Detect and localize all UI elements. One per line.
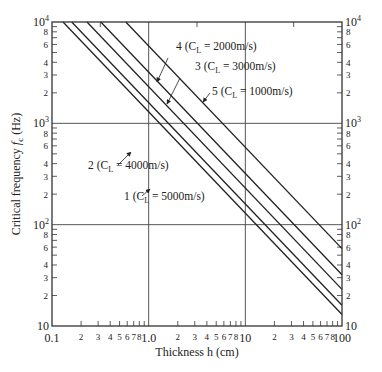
y-minor-tick-label-right: 6 [346,141,351,151]
series-label-2: 2 (CL = 4000m/s) [88,159,169,174]
y-minor-tick-label-right: 2 [346,190,351,200]
x-major-tick-label: 1.0 [141,331,156,345]
x-minor-tick-label: 3 [193,332,198,342]
y-minor-tick-label-right: 2 [346,88,351,98]
y-minor-tick-label-left: 4 [44,260,49,270]
y-major-tick-label-right: 104 [345,14,361,29]
x-major-tick-label: 10 [239,331,251,345]
x-major-tick-label: 0.1 [45,331,60,345]
y-minor-tick-label-left: 2 [44,190,49,200]
x-minor-tick-label: 8 [234,332,239,342]
series-label-3: 3 (CL = 3000m/s) [195,60,276,75]
y-minor-tick-label-left: 3 [44,70,49,80]
critical-frequency-chart: 2345678234567823456780.11.01010022334466… [0,0,382,372]
y-major-tick-label-right: 103 [345,115,361,130]
y-minor-tick-label-left: 6 [44,141,49,151]
series-line-5 [126,22,342,249]
y-minor-tick-label-left: 3 [44,273,49,283]
y-minor-tick-label-right: 4 [346,260,351,270]
series-label-5: 5 (CL = 1000m/s) [212,85,293,100]
y-minor-tick-label-left: 2 [44,291,49,301]
y-major-tick-label-right: 102 [345,217,361,232]
y-minor-tick-label-right: 2 [346,291,351,301]
y-minor-tick-label-right: 3 [346,273,351,283]
y-minor-tick-label-left: 6 [44,243,49,253]
x-minor-tick-label: 7 [131,332,136,342]
y-minor-tick-label-left: 3 [44,172,49,182]
x-major-tick-label: 100 [333,331,351,345]
x-minor-tick-label: 7 [228,332,233,342]
series-label-1: 1 (CL = 5000m/s) [124,190,205,205]
y-major-tick-label-right: 10 [345,319,357,333]
x-minor-tick-label: 6 [125,332,130,342]
y-minor-tick-label-left: 6 [44,40,49,50]
x-axis-title: Thickness h (cm) [155,345,238,359]
leader-arrow-5 [203,93,210,102]
y-major-tick-label-left: 10 [37,319,49,333]
x-minor-tick-label: 5 [311,332,316,342]
y-minor-tick-label-left: 4 [44,159,49,169]
x-minor-tick-label: 4 [205,332,210,342]
y-minor-tick-label-right: 4 [346,159,351,169]
x-minor-tick-label: 2 [79,332,84,342]
x-minor-tick-label: 2 [272,332,277,342]
y-minor-tick-label-right: 3 [346,172,351,182]
x-minor-tick-label: 2 [176,332,181,342]
x-minor-tick-label: 4 [301,332,306,342]
y-minor-tick-label-right: 3 [346,70,351,80]
x-minor-tick-label: 5 [117,332,122,342]
x-minor-tick-label: 3 [96,332,101,342]
x-minor-tick-label: 6 [318,332,323,342]
leader-arrow-3 [167,78,180,104]
y-minor-tick-label-right: 6 [346,40,351,50]
x-minor-tick-label: 4 [108,332,113,342]
y-minor-tick-label-right: 6 [346,243,351,253]
y-minor-tick-label-left: 4 [44,58,49,68]
x-minor-tick-label: 3 [289,332,294,342]
series-annotations: 1 (CL = 5000m/s)2 (CL = 4000m/s)3 (CL = … [88,40,293,205]
x-minor-tick-label: 6 [222,332,227,342]
series-label-4: 4 (CL = 2000m/s) [176,40,257,55]
leader-arrow-4 [157,58,168,82]
y-minor-tick-label-left: 2 [44,88,49,98]
x-minor-tick-label: 5 [214,332,219,342]
x-minor-tick-label: 7 [325,332,330,342]
y-axis-title: Critical frequency fc (Hz) [9,113,25,235]
y-minor-tick-label-right: 4 [346,58,351,68]
